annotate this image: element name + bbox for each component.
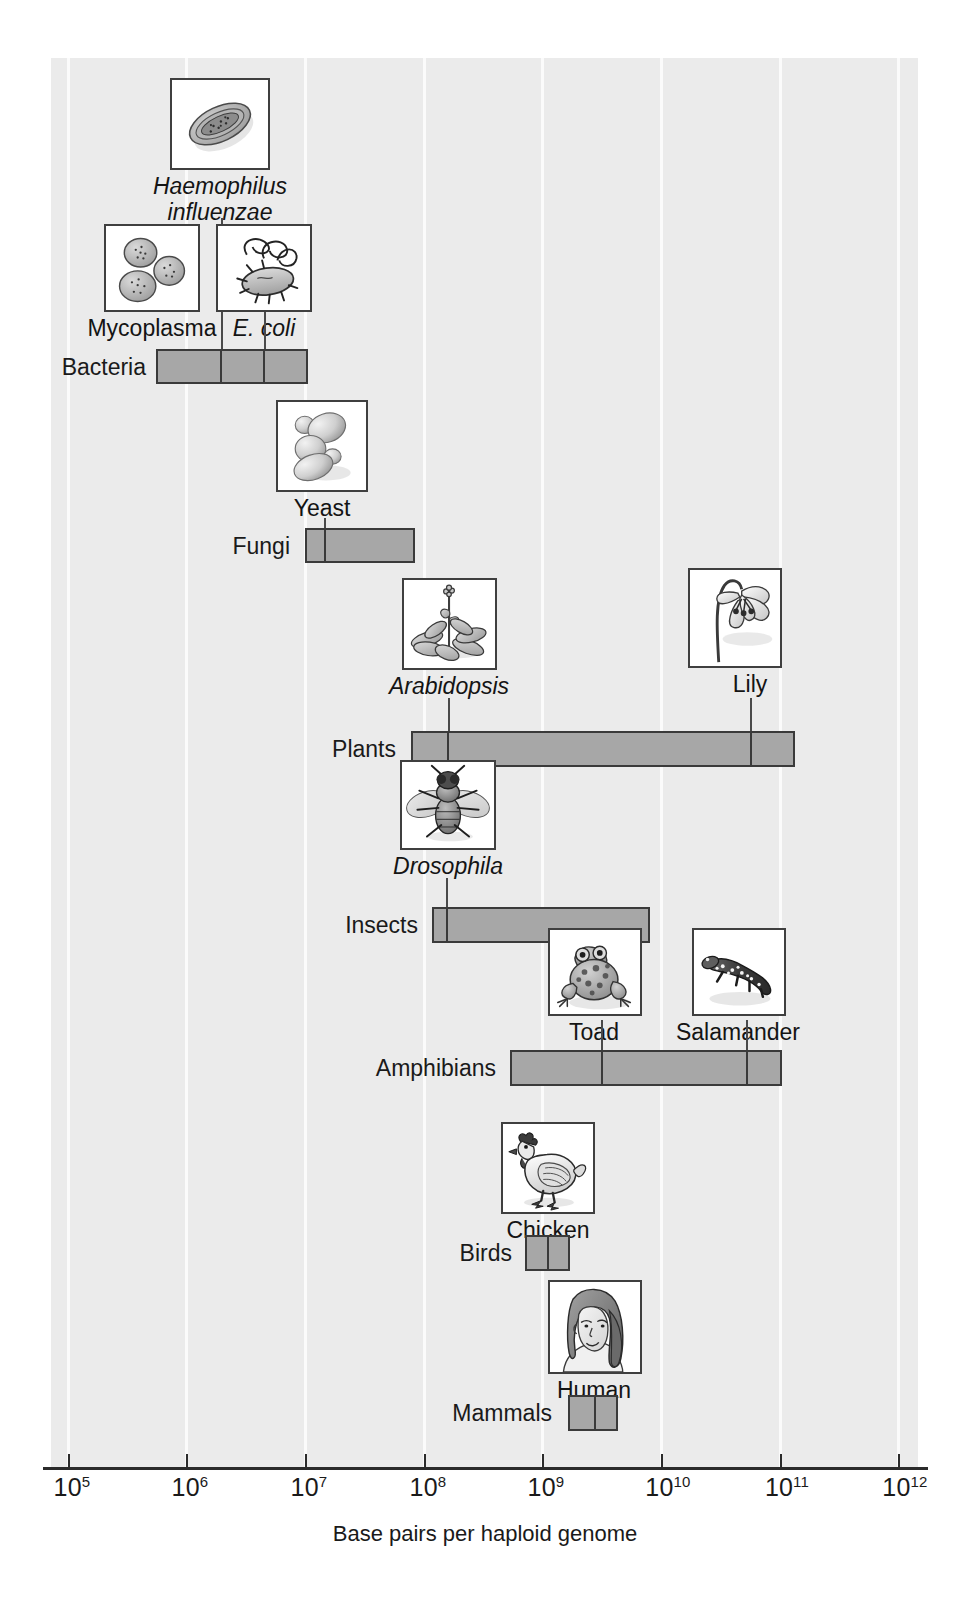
bar-label-mammals: Mammals <box>290 1400 552 1427</box>
bar-label-birds: Birds <box>300 1240 512 1267</box>
chicken-image <box>501 1122 595 1214</box>
x-tick-1e5 <box>68 1454 70 1468</box>
salamander-image <box>692 928 786 1016</box>
tick-base: 10 <box>410 1473 438 1501</box>
x-tick-1e10 <box>661 1454 663 1468</box>
x-axis-title: Base pairs per haploid genome <box>0 1521 970 1547</box>
leader-toad <box>601 1020 603 1050</box>
specimen-drosophila: Drosophila <box>400 760 496 850</box>
specimen-ecoli: E. coli <box>216 224 312 312</box>
bar-fungi <box>305 528 415 563</box>
x-tick-label-1e9: 109 <box>528 1473 565 1502</box>
specimen-human: Human <box>548 1280 642 1374</box>
bar-tick-chicken <box>547 1235 549 1271</box>
bar-label-bacteria: Bacteria <box>0 354 146 381</box>
bar-tick-drosophila <box>446 907 448 943</box>
x-tick-1e6 <box>186 1454 188 1468</box>
tick-base: 10 <box>528 1473 556 1501</box>
mycoplasma-caption: Mycoplasma <box>87 316 216 342</box>
tick-base: 10 <box>54 1473 82 1501</box>
bar-tick-yeast <box>324 528 326 563</box>
x-tick-1e9 <box>542 1454 544 1468</box>
x-tick-label-1e11: 1011 <box>765 1473 809 1502</box>
haemophilus-image <box>170 78 270 170</box>
tick-exp: 6 <box>200 1473 209 1490</box>
bar-tick-mycoplasma <box>220 349 222 384</box>
bar-mammals <box>568 1395 618 1431</box>
bar-bacteria <box>156 349 308 384</box>
haemophilus-species: influenzae <box>168 199 273 225</box>
tick-exp: 8 <box>438 1473 447 1490</box>
x-tick-label-1e12: 1012 <box>882 1473 927 1502</box>
specimen-yeast: Yeast <box>276 400 368 492</box>
yeast-image <box>276 400 368 492</box>
drosophila-caption: Drosophila <box>393 854 503 880</box>
bar-tick-lily <box>750 731 752 767</box>
tick-exp: 5 <box>82 1473 91 1490</box>
bar-amphibians <box>510 1050 782 1086</box>
bar-tick-human <box>594 1395 596 1431</box>
tick-base: 10 <box>882 1473 910 1501</box>
bar-label-amphibians: Amphibians <box>250 1055 496 1082</box>
x-tick-label-1e5: 105 <box>54 1473 91 1502</box>
genome-size-figure: Haemophilus influenzae <box>0 0 970 1597</box>
leader-arabidopsis <box>448 698 450 732</box>
leader-ecoli <box>264 312 266 350</box>
salamander-caption: Salamander <box>676 1020 800 1046</box>
x-tick-label-1e8: 108 <box>410 1473 447 1502</box>
x-tick-1e7 <box>305 1454 307 1468</box>
tick-exp: 10 <box>674 1473 691 1490</box>
specimen-mycoplasma: Mycoplasma <box>104 224 200 312</box>
tick-base: 10 <box>645 1473 673 1501</box>
bar-label-plants: Plants <box>190 736 396 763</box>
x-tick-1e8 <box>424 1454 426 1468</box>
leader-salamander <box>746 1020 748 1050</box>
toad-caption: Toad <box>569 1020 619 1046</box>
tick-exp: 11 <box>793 1473 809 1490</box>
lily-image <box>688 568 782 668</box>
tick-exp: 7 <box>319 1473 328 1490</box>
x-tick-label-1e7: 107 <box>291 1473 328 1502</box>
mycoplasma-image <box>104 224 200 312</box>
bar-tick-toad <box>601 1050 603 1086</box>
bar-label-insects: Insects <box>210 912 418 939</box>
specimen-lily: Lily <box>688 568 782 668</box>
drosophila-image <box>400 760 496 850</box>
tick-base: 10 <box>765 1473 793 1501</box>
specimen-toad: Toad <box>548 928 642 1016</box>
human-image <box>548 1280 642 1374</box>
leader-mycoplasma <box>221 312 223 350</box>
gridline-1e12 <box>897 58 900 1467</box>
specimen-chicken: Chicken <box>501 1122 595 1214</box>
toad-image <box>548 928 642 1016</box>
arabidopsis-caption: Arabidopsis <box>389 674 509 700</box>
bar-label-fungi: Fungi <box>90 533 290 560</box>
arabidopsis-image <box>402 578 497 670</box>
yeast-caption: Yeast <box>294 496 351 522</box>
tick-exp: 9 <box>556 1473 565 1490</box>
haemophilus-caption: Haemophilus influenzae <box>153 174 287 226</box>
specimen-haemophilus: Haemophilus influenzae <box>170 78 270 170</box>
x-tick-1e11 <box>780 1454 782 1468</box>
bar-tick-salamander <box>746 1050 748 1086</box>
haemophilus-genus: Haemophilus <box>153 173 287 199</box>
ecoli-image <box>216 224 312 312</box>
lily-caption: Lily <box>733 672 768 698</box>
x-tick-label-1e6: 106 <box>172 1473 209 1502</box>
specimen-arabidopsis: Arabidopsis <box>402 578 497 670</box>
gridline-1e5 <box>67 58 70 1467</box>
x-axis-line <box>43 1467 928 1470</box>
tick-base: 10 <box>172 1473 200 1501</box>
tick-base: 10 <box>291 1473 319 1501</box>
tick-exp: 12 <box>911 1473 928 1490</box>
x-tick-1e12 <box>898 1454 900 1468</box>
x-tick-label-1e10: 1010 <box>645 1473 690 1502</box>
leader-lily <box>750 698 752 732</box>
specimen-salamander: Salamander <box>692 928 786 1016</box>
bar-tick-ecoli <box>263 349 265 384</box>
leader-drosophila <box>446 878 448 908</box>
